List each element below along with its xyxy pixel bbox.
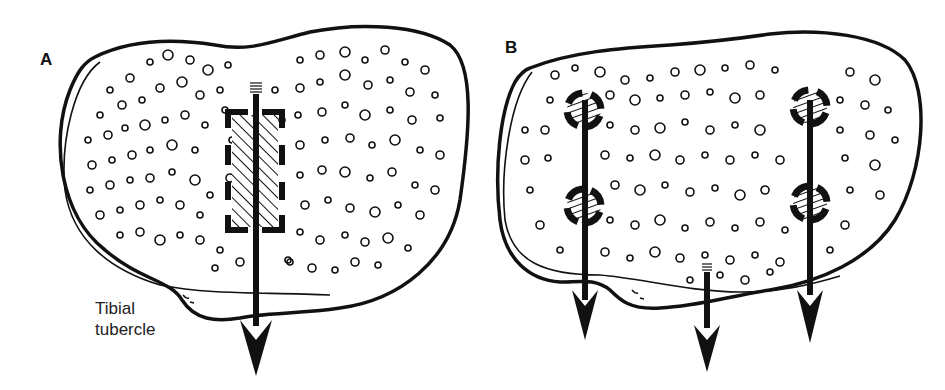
- tibial-tubercle-label: Tibial tubercle: [95, 298, 155, 340]
- caption-line-1: Tibial: [95, 298, 155, 319]
- panel-label-a: A: [40, 50, 52, 70]
- panel-label-b: B: [505, 38, 517, 58]
- panel-b: [498, 32, 921, 372]
- caption-line-2: tubercle: [95, 319, 155, 340]
